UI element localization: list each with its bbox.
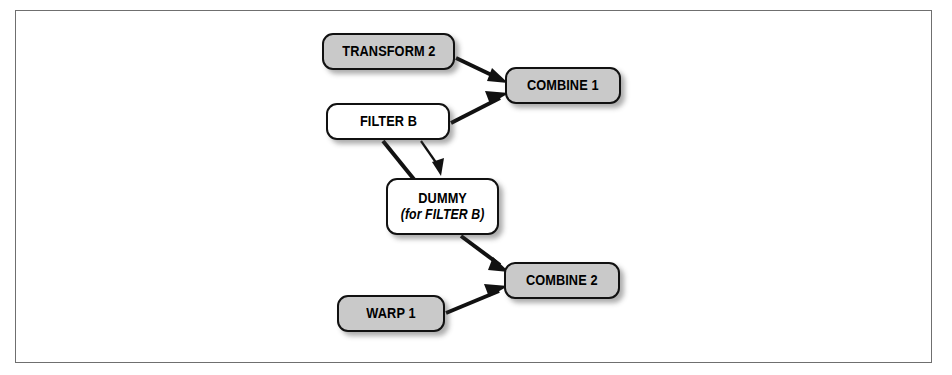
node-filter-b[interactable]: FILTER B	[326, 103, 450, 140]
edge-dummy-to-combine2	[461, 236, 509, 272]
edge-transform2-to-combine1	[456, 58, 508, 83]
diagram-root: TRANSFORM 2 COMBINE 1 FILTER B DUMMY (fo…	[0, 0, 952, 375]
node-label: DUMMY	[418, 191, 467, 206]
node-sublabel: (for FILTER B)	[401, 207, 485, 222]
edge-filterb-to-combine1	[451, 91, 509, 123]
node-combine-2[interactable]: COMBINE 2	[504, 262, 620, 299]
node-label: TRANSFORM 2	[342, 44, 435, 59]
node-label: COMBINE 2	[526, 273, 598, 288]
node-transform-2[interactable]: TRANSFORM 2	[322, 33, 455, 70]
node-warp-1[interactable]: WARP 1	[337, 295, 445, 332]
edge-filterb-to-dummy-thin	[421, 141, 444, 176]
node-dummy[interactable]: DUMMY (for FILTER B)	[386, 178, 499, 235]
node-combine-1[interactable]: COMBINE 1	[505, 67, 621, 104]
node-label: WARP 1	[366, 306, 415, 321]
node-label: COMBINE 1	[527, 78, 599, 93]
edge-warp1-to-combine2	[446, 284, 508, 313]
node-label: FILTER B	[359, 114, 416, 129]
